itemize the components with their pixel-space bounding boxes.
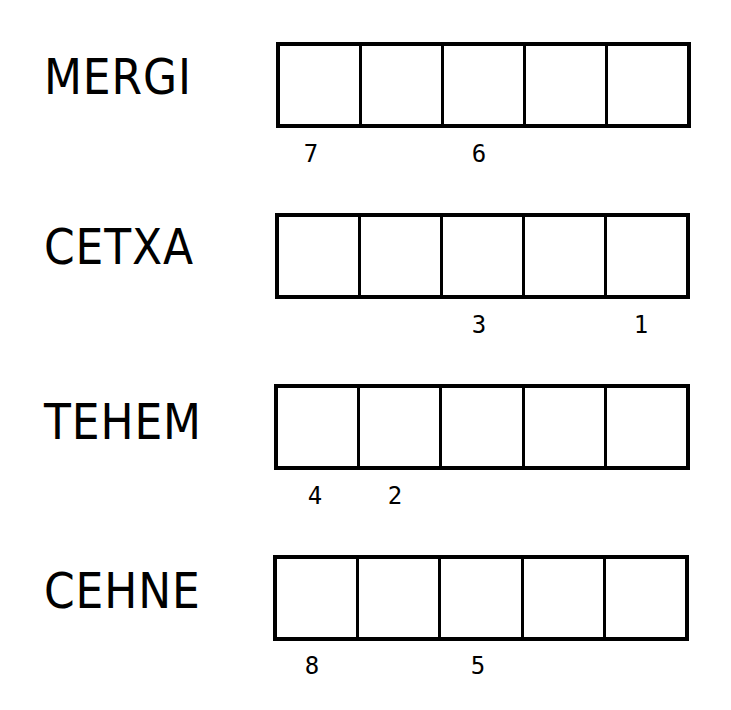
scrambled-word: CETXA — [44, 222, 211, 272]
answer-strip — [273, 555, 689, 641]
cell-hint: 1 — [626, 313, 656, 337]
puzzle-row-4: CEHNE 8 5 — [0, 0, 731, 150]
answer-cell-2[interactable] — [361, 217, 443, 295]
answer-cell-1[interactable] — [277, 559, 359, 637]
answer-strip — [275, 213, 690, 299]
answer-cell-3[interactable] — [441, 559, 523, 637]
answer-cell-3[interactable] — [442, 388, 524, 466]
scrambled-word: CEHNE — [44, 566, 211, 616]
answer-cell-4[interactable] — [524, 559, 606, 637]
answer-cell-5[interactable] — [607, 388, 686, 466]
answer-cell-5[interactable] — [607, 217, 686, 295]
answer-strip — [274, 384, 690, 470]
cell-hint: 8 — [297, 654, 327, 678]
cell-hint: 4 — [300, 484, 330, 508]
cell-hint: 2 — [380, 484, 410, 508]
cell-hint: 5 — [463, 654, 493, 678]
cell-hint: 3 — [464, 313, 494, 337]
answer-cell-2[interactable] — [360, 388, 442, 466]
answer-cell-4[interactable] — [525, 388, 607, 466]
answer-cell-5[interactable] — [606, 559, 685, 637]
answer-cell-4[interactable] — [525, 217, 607, 295]
answer-cell-1[interactable] — [279, 217, 361, 295]
answer-cell-2[interactable] — [359, 559, 441, 637]
answer-cell-3[interactable] — [443, 217, 525, 295]
answer-cell-1[interactable] — [278, 388, 360, 466]
scrambled-word: TEHEM — [44, 397, 211, 447]
